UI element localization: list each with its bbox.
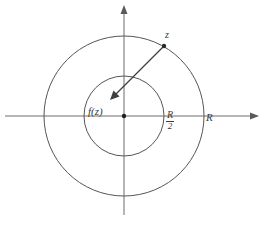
inner-radius-label: R 2 xyxy=(166,110,174,131)
point-z-label: z xyxy=(165,30,169,40)
outer-radius-label: R xyxy=(206,112,213,123)
r-over-2-fraction: R 2 xyxy=(166,110,174,131)
diagram-canvas xyxy=(0,0,266,226)
z-to-fz-arrow-line xyxy=(113,47,163,97)
fraction-numerator: R xyxy=(166,110,174,121)
imaginary-axis-arrow-icon xyxy=(121,5,128,14)
fraction-denominator: 2 xyxy=(166,122,174,131)
point-z-marker xyxy=(162,44,166,48)
origin-marker xyxy=(122,114,126,118)
real-axis xyxy=(5,113,259,120)
z-to-fz-arrow xyxy=(110,47,163,100)
complex-plane-disk-diagram: z f(z) R R 2 xyxy=(0,0,266,226)
fz-label: f(z) xyxy=(88,106,103,117)
real-axis-arrow-icon xyxy=(250,113,259,120)
